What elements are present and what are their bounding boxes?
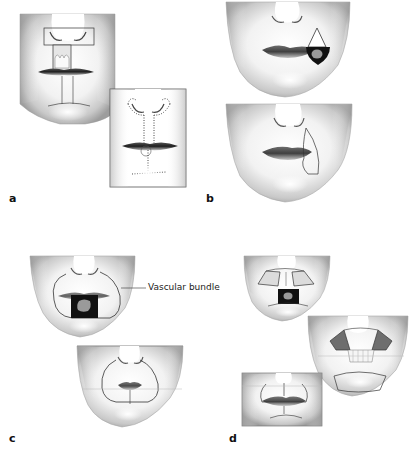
panel-c-bottom-face: [77, 346, 183, 427]
panel-label-d: d: [229, 433, 237, 444]
illustration-canvas: [0, 0, 417, 449]
panel-d-design-face: [244, 256, 330, 321]
panel-label-b: b: [206, 193, 214, 204]
panel-b-bottom-face: [226, 104, 352, 202]
panel-a-main-face: [20, 14, 115, 124]
panel-label-a: a: [9, 193, 16, 204]
vascular-bundle-label: Vascular bundle: [148, 283, 220, 292]
panel-a-inset: [110, 89, 186, 187]
panel-label-c: c: [9, 433, 16, 444]
figure: a b c d Vascular bundle: [0, 0, 417, 449]
panel-c-top-face: [30, 256, 135, 337]
panel-d-rotation-face: [308, 316, 408, 396]
panel-d-result-face: [242, 373, 322, 426]
panel-b-top-face: [226, 2, 350, 97]
